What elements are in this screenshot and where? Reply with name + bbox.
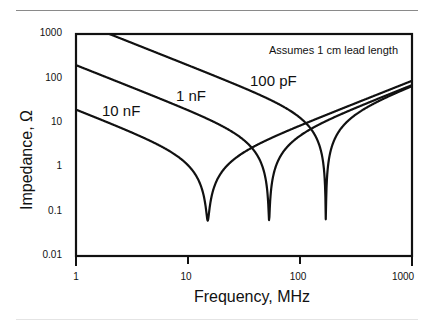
x-tick-10: 10: [180, 271, 192, 282]
y-tick-10: 10: [51, 116, 63, 127]
y-tick-100: 100: [45, 72, 62, 83]
x-axis-title: Frequency, MHz: [194, 288, 310, 305]
x-tick-labels: 1 10 100 1000: [73, 271, 414, 282]
lead-length-note: Assumes 1 cm lead length: [269, 44, 398, 56]
x-tick-1000: 1000: [392, 271, 415, 282]
x-tick-1: 1: [73, 271, 79, 282]
impedance-curves: [76, 34, 412, 221]
plot-frame: [76, 34, 412, 256]
curve-100pF: [76, 34, 412, 219]
y-tick-1: 1: [56, 160, 62, 171]
y-tick-1000: 1000: [40, 27, 63, 38]
x-axis-ticks: [76, 256, 412, 266]
label-10nF: 10 nF: [102, 102, 140, 119]
y-axis-title: Impedance, Ω: [18, 110, 35, 210]
y-tick-labels: 1000 100 10 1 0.1 0.01: [40, 27, 63, 260]
x-tick-100: 100: [290, 271, 307, 282]
impedance-chart: 1 10 100 1000 1000 100 10 1 0.1 0.01 10 …: [0, 0, 433, 321]
y-tick-0.01: 0.01: [43, 249, 63, 260]
label-100pF: 100 pF: [250, 72, 297, 89]
y-tick-0.1: 0.1: [48, 205, 62, 216]
label-1nF: 1 nF: [176, 87, 206, 104]
